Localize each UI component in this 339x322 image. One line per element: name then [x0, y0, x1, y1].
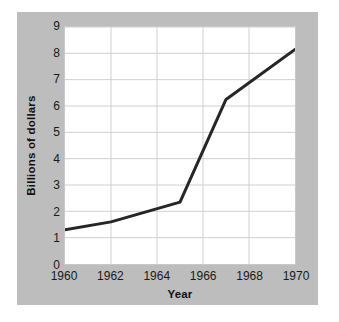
- y-axis-tick-labels: 0123456789: [36, 26, 60, 265]
- y-axis-title: Billions of dollars: [24, 26, 38, 265]
- x-tick-label: 1964: [143, 270, 170, 282]
- x-axis-tick-labels: 196019621964196619681970: [64, 270, 296, 288]
- line-series: [65, 27, 295, 264]
- x-tick-label: 1970: [283, 270, 310, 282]
- x-tick-label: 1968: [236, 270, 263, 282]
- x-axis-title: Year: [64, 288, 296, 300]
- x-tick-label: 1966: [190, 270, 217, 282]
- x-tick-label: 1962: [97, 270, 124, 282]
- chart-figure: 0123456789 196019621964196619681970 Bill…: [0, 0, 339, 322]
- data-line: [65, 49, 295, 229]
- y-tick-label: 8: [38, 47, 60, 59]
- y-tick-label: 5: [38, 126, 60, 138]
- y-tick-label: 2: [38, 206, 60, 218]
- y-tick-label: 4: [38, 153, 60, 165]
- y-tick-label: 3: [38, 179, 60, 191]
- y-tick-label: 1: [38, 232, 60, 244]
- plot-area: [64, 26, 296, 265]
- y-tick-label: 9: [38, 20, 60, 32]
- y-tick-label: 6: [38, 100, 60, 112]
- x-tick-label: 1960: [51, 270, 78, 282]
- y-tick-label: 7: [38, 73, 60, 85]
